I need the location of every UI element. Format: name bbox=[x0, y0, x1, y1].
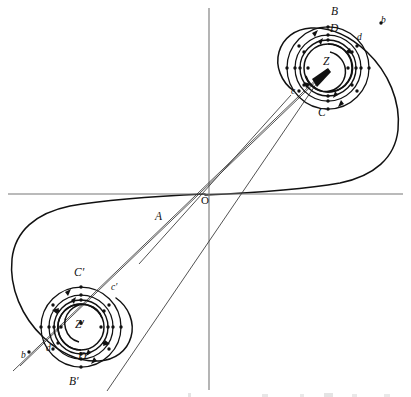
label-A: A bbox=[155, 211, 162, 223]
ray-A-lower bbox=[20, 71, 327, 366]
label-B: B bbox=[331, 6, 338, 18]
rays-group bbox=[13, 69, 327, 391]
ray-secondary bbox=[107, 74, 323, 391]
label-Z: Z bbox=[323, 56, 329, 68]
label-D: D bbox=[330, 23, 338, 35]
label-b-upper: b bbox=[381, 16, 386, 26]
ray-chord-cprime bbox=[139, 95, 291, 264]
ray-arrowhead-at-Z bbox=[312, 68, 331, 87]
scan-artifact bbox=[324, 393, 333, 397]
label-Z-prime: Z′ bbox=[75, 319, 84, 331]
label-origin-O: O bbox=[201, 195, 209, 206]
label-C-prime: C′ bbox=[74, 267, 84, 279]
pole-Z-cluster bbox=[285, 21, 382, 110]
label-c: c bbox=[291, 87, 295, 97]
outer-spiral-upper-arm bbox=[205, 28, 398, 195]
label-c-prime: c′ bbox=[111, 283, 117, 293]
scan-artifact bbox=[188, 393, 191, 397]
label-b-lower: b bbox=[21, 351, 26, 361]
label-D-prime: D′ bbox=[78, 351, 89, 363]
label-B-prime: B′ bbox=[69, 376, 79, 388]
figure-canvas: B b D d Z c C O A C′ c′ Z′ b d′ D′ B′ bbox=[0, 0, 411, 397]
label-C: C bbox=[318, 107, 326, 119]
label-d-prime: d′ bbox=[46, 344, 53, 354]
label-d: d bbox=[357, 33, 362, 43]
outer-spiral-lower-arm bbox=[12, 194, 205, 361]
